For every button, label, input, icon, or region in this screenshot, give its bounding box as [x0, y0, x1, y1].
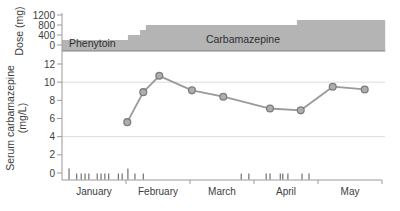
serum-axis-title-line1: Serum carbamazepine: [4, 65, 16, 171]
month-label: February: [138, 186, 178, 197]
data-point: [220, 93, 227, 100]
serum-y-tick-label: 10: [44, 77, 56, 88]
serum-y-tick-label: 2: [49, 149, 55, 160]
dose-axis-title-text: Dose (mg): [13, 6, 25, 55]
dose-serum-chart: 04008001200Dose (mg)PhenytoinCarbamazepi…: [0, 0, 400, 211]
chart-canvas: 04008001200Dose (mg)PhenytoinCarbamazepi…: [0, 0, 400, 211]
serum-y-tick-label: 4: [49, 131, 55, 142]
serum-axis-title-line2: (mg/L): [16, 103, 28, 133]
data-point: [189, 87, 196, 94]
data-point: [140, 89, 147, 96]
data-point: [156, 72, 163, 79]
serum-y-tick-label: 8: [49, 95, 55, 106]
dose-y-tick-label: 800: [38, 20, 55, 31]
dose-y-tick-label: 1200: [33, 10, 56, 21]
serum-y-tick-label: 0: [49, 168, 55, 179]
dose-y-tick-label: 400: [38, 30, 55, 41]
dose-y-tick-label: 0: [49, 40, 55, 51]
data-point: [124, 119, 131, 126]
serum-axis-title: Serum carbamazepine: [4, 65, 16, 171]
phenytoin-label: Phenytoin: [69, 37, 116, 49]
serum-line: [127, 76, 364, 122]
carbamazepine-label: Carbamazepine: [206, 33, 280, 45]
month-label: January: [76, 186, 112, 197]
data-point: [267, 105, 274, 112]
dose-axis-title: Dose (mg): [13, 6, 25, 55]
data-point: [361, 86, 368, 93]
serum-axis-title: (mg/L): [16, 103, 28, 133]
month-label: March: [208, 186, 236, 197]
serum-y-tick-label: 12: [44, 59, 56, 70]
data-point: [297, 107, 304, 114]
month-label: May: [341, 186, 360, 197]
month-label: April: [276, 186, 296, 197]
data-point: [329, 83, 336, 90]
serum-y-tick-label: 6: [49, 113, 55, 124]
